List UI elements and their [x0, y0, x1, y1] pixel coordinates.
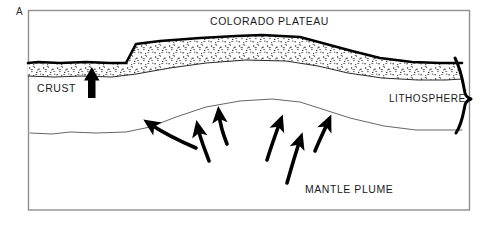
- panel-letter-a: A: [16, 6, 23, 17]
- label-mantle-plume: MANTLE PLUME: [305, 183, 393, 195]
- curved-arrow-icon-far-left: [150, 124, 196, 148]
- figure-canvas: A COLORADO PLATEAU CRUST LITHOSPHERE MAN…: [0, 0, 496, 232]
- plume-arrow-group: [150, 114, 328, 183]
- lithosphere-base-line: [30, 99, 462, 134]
- curved-arrow-icon-mid-left: [219, 114, 227, 144]
- label-crust: CRUST: [37, 82, 76, 94]
- curved-arrow-icon-left: [198, 128, 209, 161]
- label-colorado-plateau: COLORADO PLATEAU: [210, 15, 329, 27]
- label-lithosphere: LITHOSPHERE: [389, 93, 466, 104]
- curved-arrow-icon-far-right: [315, 122, 328, 151]
- curved-arrow-icon-mid-right: [267, 122, 280, 160]
- curved-arrow-icon-right: [287, 140, 300, 183]
- cross-section-drawing: [0, 0, 496, 232]
